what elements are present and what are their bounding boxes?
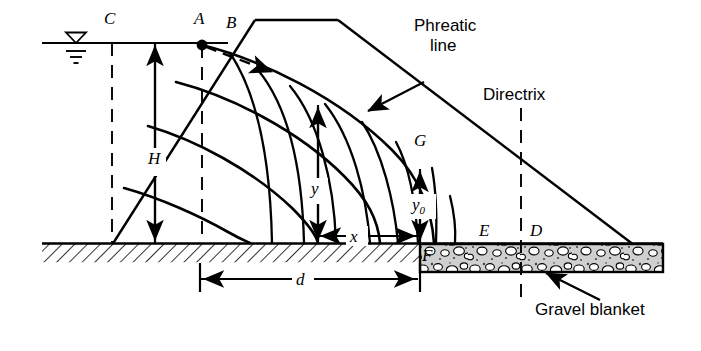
phreatic-line-leader [368,82,424,111]
annotation-gravel-blanket: Gravel blanket [535,300,645,320]
seepage-flow-net-figure: C A B G E D F H y y0 x d Phreaticline Di… [0,0,701,351]
annotation-phreatic-line: Phreaticline [414,16,476,55]
label-point-E: E [479,222,489,239]
water-level-symbol [66,33,86,64]
label-point-C: C [104,10,115,27]
label-dimension-y0: y0 [412,196,425,216]
label-point-G: G [414,132,426,149]
gravel-blanket-drain [420,244,663,272]
label-point-A: A [194,10,204,27]
point-A-marker [197,40,208,51]
diagram-canvas [0,0,701,351]
dimension-H [146,43,166,243]
annotation-directrix: Directrix [483,85,545,105]
flow-net-flow-lines [124,45,434,243]
dimension-d [200,263,420,292]
label-dimension-H: H [148,150,160,167]
gravel-blanket-leader [546,273,600,300]
label-dimension-y: y [311,180,319,197]
label-point-D: D [530,222,542,239]
label-dimension-x: x [350,228,358,245]
label-point-F: F [422,247,432,264]
label-point-B: B [226,14,236,31]
dimension-y [309,105,328,243]
label-dimension-d: d [296,271,305,288]
